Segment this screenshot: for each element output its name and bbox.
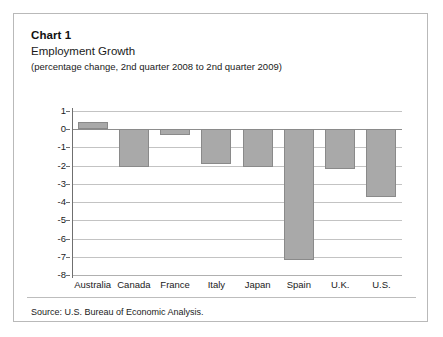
y-tick-mark xyxy=(66,129,70,130)
chart-number: Chart 1 xyxy=(31,28,411,42)
y-tick-label: -3 xyxy=(40,179,66,189)
y-tick-label: -6 xyxy=(40,234,66,244)
y-tick-label: -5 xyxy=(40,215,66,225)
x-tick-label: Australia xyxy=(72,279,113,291)
y-axis-tick-labels: 10-1-2-3-4-5-6-7-8 xyxy=(36,111,66,275)
y-tick-label: 1 xyxy=(40,106,66,116)
x-tick-label: Spain xyxy=(278,279,319,291)
x-tick-label: U.S. xyxy=(361,279,402,291)
y-tick-label: -1 xyxy=(40,142,66,152)
axis-lines xyxy=(72,111,402,275)
y-tick-mark xyxy=(66,220,70,221)
y-tick-label: 0 xyxy=(40,124,66,134)
x-tick-label: Canada xyxy=(113,279,154,291)
y-tick-label: -7 xyxy=(40,252,66,262)
page-title: Employment Growth xyxy=(31,44,411,59)
y-tick-mark xyxy=(66,202,70,203)
y-tick-label: -2 xyxy=(40,161,66,171)
x-tick-label: Italy xyxy=(196,279,237,291)
chart-header: Chart 1 Employment Growth (percentage ch… xyxy=(31,28,411,74)
y-axis-line xyxy=(72,108,73,278)
x-axis-tick-labels: AustraliaCanadaFranceItalyJapanSpainU.K.… xyxy=(72,279,402,293)
y-tick-mark xyxy=(66,111,70,112)
source-note: Source: U.S. Bureau of Economic Analysis… xyxy=(31,306,204,318)
gridline xyxy=(72,275,402,276)
x-tick-label: U.K. xyxy=(320,279,361,291)
y-tick-mark xyxy=(66,257,70,258)
footer-divider xyxy=(27,297,416,298)
plot-area xyxy=(72,111,402,275)
y-tick-label: -8 xyxy=(40,270,66,280)
chart-subtitle: (percentage change, 2nd quarter 2008 to … xyxy=(31,60,411,74)
y-tick-mark xyxy=(66,275,70,276)
y-tick-mark xyxy=(66,184,70,185)
y-tick-mark xyxy=(66,239,70,240)
y-tick-label: -4 xyxy=(40,197,66,207)
x-tick-label: Japan xyxy=(237,279,278,291)
chart-card: Chart 1 Employment Growth (percentage ch… xyxy=(13,13,428,322)
x-tick-label: France xyxy=(155,279,196,291)
y-tick-mark xyxy=(66,166,70,167)
y-tick-mark xyxy=(66,147,70,148)
